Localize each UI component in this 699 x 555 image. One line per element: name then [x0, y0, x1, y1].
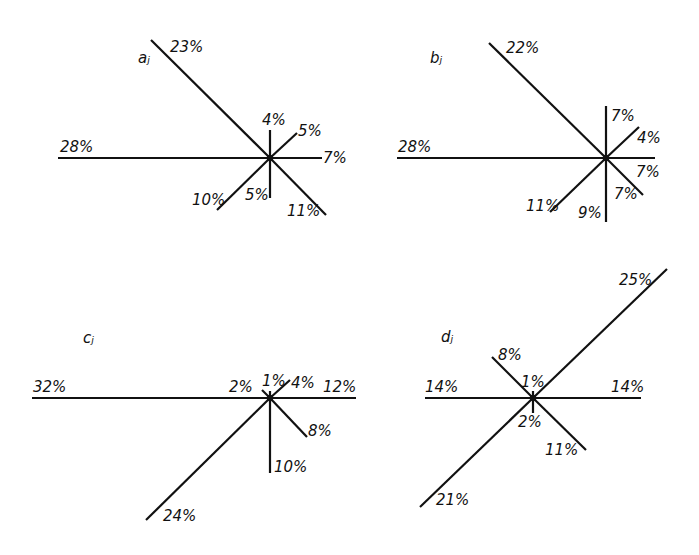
center-hub-b — [603, 155, 609, 161]
panel-label-c: cⱼ — [83, 329, 94, 347]
ray-b-ne — [606, 127, 639, 158]
panel-a: aⱼ28%23%4%5%7%5%10%11% — [58, 38, 347, 220]
panel-label-b: bⱼ — [430, 49, 443, 67]
center-hub-c — [267, 395, 273, 401]
ray-value-c-e: 12% — [323, 378, 356, 396]
ray-value-d-s: 2% — [518, 413, 542, 431]
ray-c-sw — [146, 398, 270, 520]
center-hub-d — [530, 395, 536, 401]
ray-value-d-se: 11% — [545, 441, 578, 459]
wind-rose-figure: aⱼ28%23%4%5%7%5%10%11% bⱼ28%22%7%4%7%9%1… — [0, 0, 699, 555]
ray-value-a-s: 5% — [245, 186, 269, 204]
panel-d: dⱼ14%14%25%21%8%1%2%11% — [420, 269, 667, 509]
ray-value-b-e: 7% — [636, 163, 660, 181]
ray-value-b-se: 7% — [614, 185, 638, 203]
ray-c-se — [270, 398, 307, 437]
ray-value-c-se: 8% — [308, 422, 332, 440]
ray-value-a-nw: 23% — [170, 38, 203, 56]
ray-value-a-se: 11% — [287, 202, 320, 220]
ray-value-a-w: 28% — [60, 138, 93, 156]
ray-value-a-n: 4% — [262, 111, 286, 129]
ray-value-d-sw: 21% — [436, 491, 469, 509]
panel-label-d: dⱼ — [441, 328, 454, 346]
ray-value-d-nw: 8% — [498, 346, 522, 364]
panel-label-a: aⱼ — [138, 49, 150, 67]
ray-value-c-nw: 2% — [229, 378, 253, 396]
center-hub-a — [267, 155, 273, 161]
ray-value-c-ne: 4% — [291, 374, 315, 392]
ray-value-d-e: 14% — [611, 378, 644, 396]
ray-a-nw — [151, 40, 270, 158]
ray-value-c-w: 32% — [33, 378, 66, 396]
ray-value-c-sw: 24% — [163, 507, 196, 525]
ray-a-ne — [270, 133, 297, 158]
ray-value-d-ne: 25% — [619, 271, 652, 289]
ray-value-b-s: 9% — [578, 204, 602, 222]
ray-value-c-s: 10% — [274, 458, 307, 476]
ray-value-d-n: 1% — [521, 373, 545, 391]
ray-value-b-sw: 11% — [526, 197, 559, 215]
ray-value-b-ne: 4% — [637, 129, 661, 147]
ray-value-a-ne: 5% — [298, 122, 322, 140]
panel-b: bⱼ28%22%7%4%7%9%11%7% — [397, 39, 661, 222]
ray-b-nw — [489, 43, 606, 158]
ray-value-b-nw: 22% — [506, 39, 539, 57]
ray-value-b-w: 28% — [398, 138, 431, 156]
ray-value-a-e: 7% — [323, 149, 347, 167]
ray-value-a-sw: 10% — [192, 191, 225, 209]
panel-c: cⱼ32%2%1%4%12%8%10%24% — [32, 329, 356, 525]
ray-value-b-n: 7% — [611, 107, 635, 125]
ray-value-d-w: 14% — [425, 378, 458, 396]
